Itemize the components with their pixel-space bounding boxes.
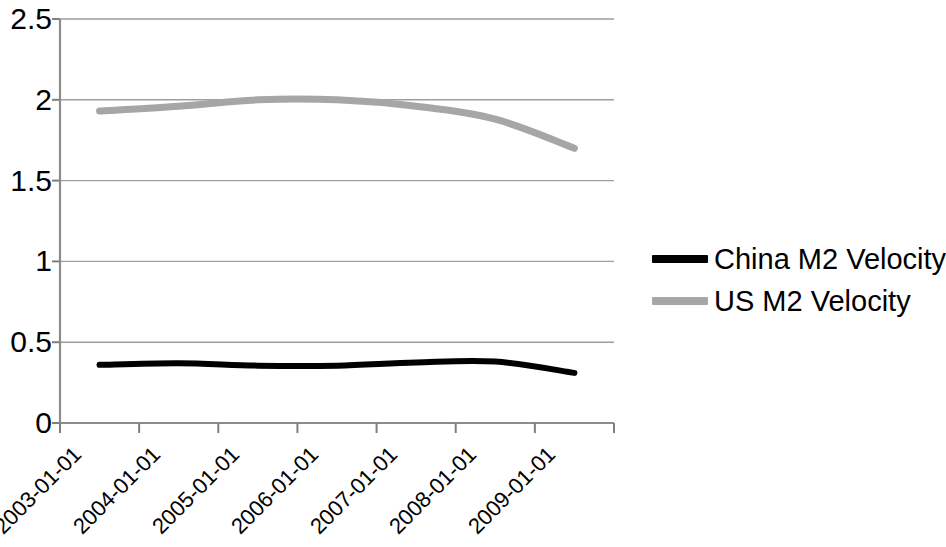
legend-label-china: China M2 Velocity — [714, 243, 946, 275]
legend-swatch-china-icon — [652, 255, 708, 263]
legend-item-china-m2-velocity: China M2 Velocity — [652, 238, 924, 280]
chart-legend: China M2 Velocity US M2 Velocity — [652, 238, 924, 322]
legend-swatch-us-icon — [652, 297, 708, 305]
legend-item-us-m2-velocity: US M2 Velocity — [652, 280, 924, 322]
legend-label-us: US M2 Velocity — [714, 285, 911, 317]
